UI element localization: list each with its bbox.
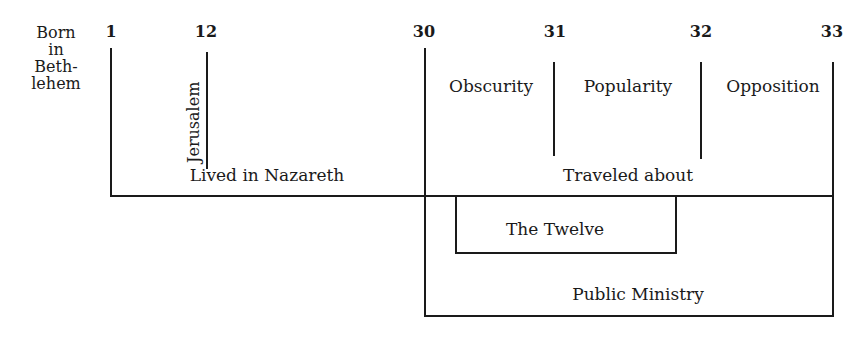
jerusalem-label: Jerusalem <box>184 82 203 163</box>
ministry-baseline <box>424 315 834 317</box>
twelve-label: The Twelve <box>506 219 604 239</box>
jerusalem-line <box>206 52 208 169</box>
age-33-line <box>832 62 834 317</box>
year-label-32: 32 <box>690 22 712 41</box>
traveled-label: Traveled about <box>563 165 693 185</box>
year-label-12: 12 <box>195 22 217 41</box>
opposition-label: Opposition <box>726 76 820 96</box>
birth-line-3: Beth- <box>24 58 88 75</box>
nazareth-label: Lived in Nazareth <box>190 165 345 185</box>
year-label-33: 33 <box>821 22 843 41</box>
year-label-31: 31 <box>544 22 566 41</box>
year-label-30: 30 <box>413 22 435 41</box>
age-30-line <box>424 48 426 317</box>
age-31-line <box>553 62 555 156</box>
ministry-label: Public Ministry <box>572 284 704 304</box>
birth-line-1: Born <box>24 24 88 41</box>
obscurity-label: Obscurity <box>449 76 533 96</box>
year-label-1: 1 <box>105 22 116 41</box>
age-1-line <box>110 48 112 197</box>
birth-line-2: in <box>24 41 88 58</box>
age-32-line <box>700 62 702 159</box>
popularity-label: Popularity <box>584 76 672 96</box>
birth-label: Born in Beth- lehem <box>24 24 88 92</box>
birth-line-4: lehem <box>24 75 88 92</box>
